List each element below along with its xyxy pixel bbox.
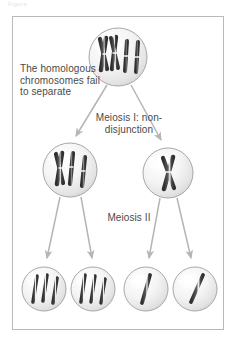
figure-root: Figure <box>0 0 237 342</box>
daughter-cell-right <box>143 148 193 198</box>
arrow-right-to-gamete-4 <box>177 198 191 258</box>
gamete-2 <box>71 267 115 311</box>
label-homologous-chromosomes-fail-to-separate: The homologous chromosomes fail to separ… <box>20 63 106 98</box>
gamete-3 <box>124 267 168 311</box>
gamete-1 <box>22 267 66 311</box>
arrow-left-to-gamete-2 <box>81 197 92 258</box>
gamete-4 <box>173 267 217 311</box>
label-meiosis-one: Meiosis I: non-disjunction <box>92 112 166 135</box>
diagram-canvas <box>0 0 237 342</box>
daughter-cell-left <box>43 143 97 197</box>
arrow-left-to-gamete-1 <box>47 197 60 258</box>
label-meiosis-two: Meiosis II <box>92 212 166 224</box>
arrow-right-to-gamete-3 <box>149 198 160 258</box>
arrow-group-meiosis-ii <box>47 197 191 258</box>
